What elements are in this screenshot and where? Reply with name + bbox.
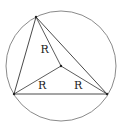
radius-to-top-vertex <box>36 17 61 66</box>
center-point <box>60 65 62 67</box>
radius-to-right-vertex <box>61 66 107 94</box>
label-radius-right: R <box>74 79 83 92</box>
vertex-top <box>35 16 37 18</box>
label-radius-top: R <box>41 43 50 56</box>
label-radius-left: R <box>38 79 47 92</box>
circumcircle-diagram: R R R <box>0 0 119 125</box>
vertex-right <box>106 93 108 95</box>
vertex-left <box>13 93 15 95</box>
